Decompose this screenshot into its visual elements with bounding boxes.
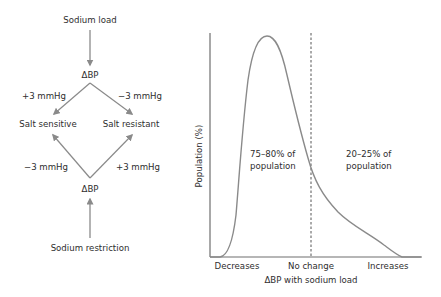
salt-sensitive-label: Salt sensitive [19, 119, 76, 129]
x-tick-no-change: No change [288, 261, 334, 271]
left-bottom-change-label: −3 mmHg [24, 162, 68, 172]
flow-diagram: Sodium load ΔBP +3 mmHg −3 mmHg Salt sen… [19, 15, 162, 253]
x-tick-decreases: Decreases [215, 261, 260, 271]
left-top-change-label: +3 mmHg [22, 91, 66, 101]
right-top-change-label: −3 mmHg [118, 91, 162, 101]
sodium-restriction-label: Sodium restriction [51, 243, 130, 253]
right-bottom-change-label: +3 mmHg [116, 162, 160, 172]
x-axis-label: ΔBP with sodium load [264, 275, 357, 285]
right-annotation-line1: 20–25% of [346, 149, 392, 159]
left-annotation-line1: 75–80% of [250, 149, 296, 159]
right-annotation-line2: population [346, 161, 392, 171]
delta-bp-top-node: ΔBP [82, 70, 99, 80]
salt-resistant-label: Salt resistant [103, 119, 160, 129]
sodium-load-label: Sodium load [63, 15, 116, 25]
x-tick-increases: Increases [368, 261, 409, 271]
left-annotation-line2: population [250, 161, 296, 171]
figure-canvas: Sodium load ΔBP +3 mmHg −3 mmHg Salt sen… [0, 0, 441, 297]
distribution-curve [210, 36, 421, 257]
distribution-chart: Population (%) 75–80% of population 20–2… [194, 33, 422, 285]
y-axis-label: Population (%) [194, 125, 204, 188]
delta-bp-bottom-node: ΔBP [82, 184, 99, 194]
